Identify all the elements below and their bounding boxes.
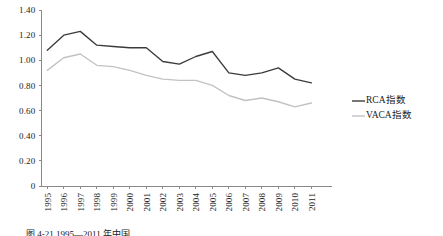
y-tick-label: 0.80 <box>19 81 36 91</box>
x-axis: 1995199619971998199920002001200220032004… <box>42 186 333 211</box>
y-tick-label: 1.40 <box>19 5 36 15</box>
x-tick-label: 2002 <box>158 193 168 211</box>
x-tick-label: 2004 <box>191 193 201 212</box>
x-tick-label: 2000 <box>125 193 135 212</box>
y-tick-label: 1.00 <box>19 55 36 65</box>
x-tick-label: 2005 <box>208 193 218 212</box>
series-line-vaca <box>47 54 311 107</box>
x-tick-label: 2006 <box>224 193 234 212</box>
x-tick-label: 2011 <box>307 193 317 211</box>
x-tick-label: 1999 <box>109 193 119 212</box>
figure-caption: 图 4-21 1995—2011 年中国 <box>26 229 130 236</box>
y-tick-label: 0.20 <box>19 156 36 166</box>
legend-label: VACA指数 <box>366 109 412 120</box>
x-tick-label: 1997 <box>76 193 86 212</box>
line-chart: 1.401.201.000.800.600.400.200 1995199619… <box>0 0 443 236</box>
y-axis: 1.401.201.000.800.600.400.200 <box>19 5 42 191</box>
x-tick-label: 2003 <box>175 193 185 212</box>
data-series-group <box>47 31 311 106</box>
x-tick-label: 2010 <box>290 193 300 212</box>
x-tick-label: 2008 <box>257 193 267 212</box>
x-axis-tick-labels: 1995199619971998199920002001200220032004… <box>43 193 317 212</box>
chart-legend: RCA指数VACA指数 <box>352 94 412 120</box>
x-tick-label: 2009 <box>274 193 284 212</box>
y-tick-label: 0.40 <box>19 131 36 141</box>
x-tick-label: 2007 <box>241 193 251 212</box>
y-tick-label: 1.20 <box>19 30 36 40</box>
x-tick-label: 2001 <box>142 193 152 211</box>
legend-label: RCA指数 <box>366 94 406 105</box>
x-tick-label: 1998 <box>92 193 102 212</box>
series-line-rca <box>47 31 311 83</box>
x-tick-label: 1996 <box>59 193 69 212</box>
y-axis-tick-labels: 1.401.201.000.800.600.400.200 <box>19 5 36 191</box>
x-tick-label: 1995 <box>43 193 53 212</box>
y-tick-label: 0 <box>31 181 36 191</box>
y-tick-label: 0.60 <box>19 106 36 116</box>
chart-canvas: 1.401.201.000.800.600.400.200 1995199619… <box>0 0 443 236</box>
